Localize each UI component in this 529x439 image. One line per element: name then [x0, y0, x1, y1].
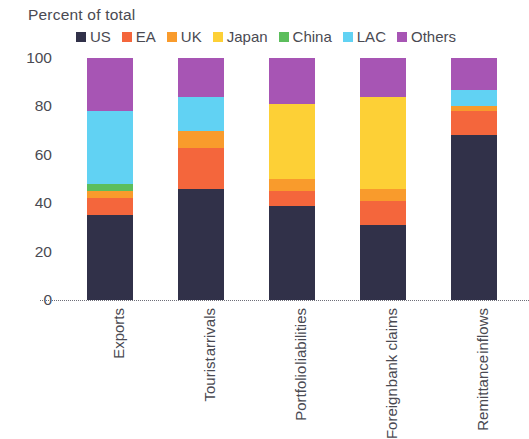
chart-title: Percent of total [28, 6, 135, 24]
bar-segment-uk [269, 179, 315, 191]
x-tick-label: Remittanceinflows [474, 308, 491, 431]
bar-segment-others [451, 58, 497, 89]
y-tick-label: 40 [35, 195, 52, 211]
x-tick-label-line: liabilities [292, 308, 309, 365]
bar-segment-us [269, 206, 315, 300]
y-tick-label: 80 [35, 99, 52, 115]
bar-portfolio-liabilities [269, 58, 315, 300]
x-tick-label-line: inflows [474, 308, 491, 354]
bar-exports [87, 58, 133, 300]
legend-swatch-icon [213, 32, 223, 42]
x-tick-label-slot: Portfolioliabilities [269, 304, 315, 420]
x-tick-label-line: Foreign [383, 388, 400, 439]
bar-segment-japan [269, 104, 315, 179]
plot-area [64, 58, 519, 300]
bar-segment-uk [360, 189, 406, 201]
legend-label: Others [411, 29, 456, 44]
y-axis-tick-labels: 020406080100 [0, 58, 58, 300]
legend-item-us: US [76, 29, 111, 44]
x-axis-baseline [40, 300, 529, 301]
x-axis-tick-labels: ExportsTouristarrivalsPortfolioliabiliti… [64, 304, 519, 420]
bar-segment-ea [87, 198, 133, 215]
x-tick-label-line: Tourist [201, 357, 218, 401]
legend-item-lac: LAC [343, 29, 386, 44]
legend-item-others: Others [397, 29, 456, 44]
legend-label: China [293, 29, 332, 44]
bar-segment-uk [178, 131, 224, 148]
x-tick-label: Touristarrivals [201, 308, 218, 402]
x-tick-label-slot: Exports [87, 304, 133, 420]
legend-label: UK [181, 29, 202, 44]
y-tick-label: 100 [26, 50, 52, 66]
x-tick-label-line: bank claims [383, 308, 400, 387]
bar-tourist-arrivals [178, 58, 224, 300]
bar-foreign-bank-claims [360, 58, 406, 300]
bar-segment-others [269, 58, 315, 104]
bar-segment-lac [178, 97, 224, 131]
legend-swatch-icon [279, 32, 289, 42]
legend-item-japan: Japan [213, 29, 268, 44]
legend-swatch-icon [397, 32, 407, 42]
bar-segment-others [360, 58, 406, 97]
legend-swatch-icon [76, 32, 86, 42]
bar-segment-others [87, 58, 133, 111]
bar-segment-ea [269, 191, 315, 206]
x-tick-label-line: Remittance [474, 355, 491, 431]
bar-segment-us [178, 189, 224, 300]
x-tick-label: Exports [110, 308, 127, 359]
legend-label: US [90, 29, 111, 44]
x-tick-label: Portfolioliabilities [292, 308, 309, 421]
legend-label: Japan [227, 29, 268, 44]
bar-segment-us [360, 225, 406, 300]
y-tick-label: 60 [35, 147, 52, 163]
x-tick-label-line: arrivals [201, 308, 218, 356]
x-tick-label-slot: Remittanceinflows [451, 304, 497, 420]
bar-segment-ea [451, 111, 497, 135]
bar-segment-lac [87, 111, 133, 184]
bar-remittance-inflows [451, 58, 497, 300]
legend-item-ea: EA [122, 29, 156, 44]
chart-legend: USEAUKJapanChinaLACOthers [76, 29, 456, 44]
legend-item-china: China [279, 29, 332, 44]
bar-segment-china [87, 184, 133, 191]
legend-item-uk: UK [167, 29, 202, 44]
legend-swatch-icon [167, 32, 177, 42]
y-tick-label: 20 [35, 244, 52, 260]
legend-swatch-icon [122, 32, 132, 42]
bar-segment-japan [360, 97, 406, 189]
bar-segment-lac [451, 90, 497, 107]
legend-swatch-icon [343, 32, 353, 42]
x-tick-label-slot: Foreignbank claims [360, 304, 406, 420]
legend-label: EA [136, 29, 156, 44]
x-tick-label: Foreignbank claims [383, 308, 400, 439]
x-tick-label-line: Portfolio [292, 366, 309, 421]
bar-segment-us [451, 135, 497, 300]
legend-label: LAC [357, 29, 386, 44]
x-tick-label-slot: Touristarrivals [178, 304, 224, 420]
bar-segment-us [87, 215, 133, 300]
x-tick-label-line: Exports [110, 308, 127, 359]
bar-segment-ea [178, 148, 224, 189]
bar-segment-ea [360, 201, 406, 225]
bar-segment-uk [87, 191, 133, 198]
bar-segment-others [178, 58, 224, 97]
